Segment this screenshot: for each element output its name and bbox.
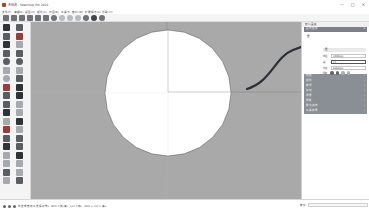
panel-instructor[interactable]: 工具向导›	[304, 109, 367, 114]
geo-location-icon[interactable]	[3, 205, 6, 208]
menu-extensions[interactable]: 扩展程序(x)	[85, 10, 101, 14]
pan-icon[interactable]	[16, 126, 23, 133]
zoom-icon[interactable]	[3, 135, 10, 142]
entity-info-header[interactable]: 图元信息▾	[304, 27, 367, 32]
undo-icon[interactable]	[59, 15, 65, 21]
zoom-extents-icon[interactable]	[3, 143, 10, 150]
dimension-icon[interactable]	[3, 109, 10, 116]
move-icon[interactable]	[3, 84, 10, 91]
panel-soften-edges[interactable]: 柔化边线›	[304, 104, 367, 109]
panel-styles[interactable]: 样式›	[304, 84, 367, 89]
new-icon[interactable]	[3, 15, 9, 21]
walk-icon[interactable]	[3, 152, 10, 159]
polygon-icon[interactable]	[16, 58, 23, 65]
hide-icon[interactable]	[341, 71, 345, 75]
position-camera-icon[interactable]	[3, 160, 10, 167]
previous-view-icon[interactable]	[16, 143, 23, 150]
shadow-flags-label: 阴影	[323, 71, 327, 75]
scale-icon[interactable]	[16, 92, 23, 99]
menu-edit[interactable]: 编辑(E)	[14, 10, 24, 14]
model-info-icon[interactable]	[83, 15, 89, 21]
entity-section-label: 圆	[323, 48, 366, 52]
status-left: 单击或拖动以选择对象。Shift = 加/减。Ctrl = 加。Shift + …	[3, 204, 108, 208]
maximize-button[interactable]: □	[351, 2, 355, 7]
push-pull-icon[interactable]	[3, 75, 10, 82]
pie-icon[interactable]	[16, 67, 23, 74]
menu-camera[interactable]: 相机(C)	[37, 10, 47, 14]
warehouse-icon[interactable]	[91, 15, 97, 21]
menu-window[interactable]: 窗口(W)	[72, 10, 83, 14]
standard-toolbar	[0, 14, 369, 22]
drawing-canvas[interactable]	[31, 22, 301, 199]
display-section-icon[interactable]	[3, 169, 10, 176]
entity-type-label: 圆	[307, 34, 366, 38]
orbit-icon[interactable]	[3, 126, 10, 133]
eraser-icon[interactable]	[16, 33, 23, 40]
follow-me-icon[interactable]	[16, 75, 23, 82]
window-title: 无标题 - SketchUp Pro 2021	[8, 3, 49, 7]
sandbox-icon[interactable]	[3, 177, 10, 184]
chevron-right-icon: ›	[364, 94, 365, 99]
copy-icon[interactable]	[35, 15, 41, 21]
chevron-right-icon: ›	[364, 104, 365, 109]
minimize-button[interactable]: —	[340, 2, 344, 7]
axes-icon[interactable]	[3, 118, 10, 125]
open-icon[interactable]	[11, 15, 17, 21]
chevron-right-icon: ›	[364, 84, 365, 89]
erase-icon[interactable]	[51, 15, 57, 21]
section-fill-icon[interactable]	[16, 169, 23, 176]
measurements-box: 数值	[300, 203, 368, 207]
offset-icon[interactable]	[3, 92, 10, 99]
credit-icon[interactable]	[8, 205, 11, 208]
length-field: 6265mm	[331, 66, 366, 70]
chevron-right-icon: ›	[364, 89, 365, 94]
menu-draw[interactable]: 绘图(R)	[49, 10, 59, 14]
print-icon[interactable]	[75, 15, 81, 21]
menu-help[interactable]: 帮助(H)	[102, 10, 112, 14]
close-button[interactable]: ✕	[362, 2, 365, 7]
redo-icon[interactable]	[67, 15, 73, 21]
section-plane-icon[interactable]	[16, 160, 23, 167]
warehouse-tool-icon[interactable]	[16, 177, 23, 184]
select-icon[interactable]	[3, 24, 10, 31]
entity-info-panel: 圆 圆 半径 1000mm 段 24 长度 6265mm 阴影	[302, 32, 369, 72]
help-icon[interactable]	[13, 205, 16, 208]
title-bar: 无标题 - SketchUp Pro 2021 — □ ✕	[0, 0, 369, 9]
zoom-window-icon[interactable]	[16, 135, 23, 142]
panel-shadows[interactable]: 阴影›	[304, 99, 367, 104]
panel-tags[interactable]: 标记›	[304, 89, 367, 94]
paint-bucket-icon[interactable]	[3, 33, 10, 40]
component-icon[interactable]	[16, 24, 23, 31]
window-controls: — □ ✕	[340, 2, 365, 7]
cast-shadow-icon[interactable]	[330, 71, 334, 75]
paste-icon[interactable]	[43, 15, 49, 21]
measurements-input[interactable]	[308, 203, 368, 207]
cut-icon[interactable]	[27, 15, 33, 21]
rotated-rectangle-icon[interactable]	[16, 50, 23, 57]
extension-icon[interactable]	[99, 15, 105, 21]
freehand-icon[interactable]	[16, 41, 23, 48]
arc-icon[interactable]	[3, 67, 10, 74]
tape-measure-icon[interactable]	[3, 101, 10, 108]
panel-scenes[interactable]: 场景›	[304, 94, 367, 99]
segments-field[interactable]: 24	[331, 60, 366, 64]
look-around-icon[interactable]	[16, 152, 23, 159]
receive-shadow-icon[interactable]	[336, 71, 340, 75]
save-icon[interactable]	[19, 15, 25, 21]
radius-field[interactable]: 1000mm	[331, 54, 366, 58]
menu-tools[interactable]: 工具(T)	[61, 10, 71, 14]
circle-icon[interactable]	[3, 58, 10, 65]
text-icon[interactable]	[16, 109, 23, 116]
rectangle-icon[interactable]	[3, 50, 10, 57]
panel-components[interactable]: 组件›	[304, 79, 367, 84]
3d-text-icon[interactable]	[16, 118, 23, 125]
menu-view[interactable]: 视图(V)	[25, 10, 35, 14]
segments-row: 段 24	[323, 59, 366, 64]
protractor-icon[interactable]	[16, 101, 23, 108]
lock-icon[interactable]	[347, 71, 351, 75]
rotate-icon[interactable]	[16, 84, 23, 91]
radius-label: 半径	[323, 54, 331, 58]
menu-file[interactable]: 文件(F)	[2, 10, 12, 14]
default-tray: 默认面板 图元信息▾ 圆 圆 半径 1000mm 段 24 长度 6265mm …	[301, 22, 369, 199]
line-icon[interactable]	[3, 41, 10, 48]
